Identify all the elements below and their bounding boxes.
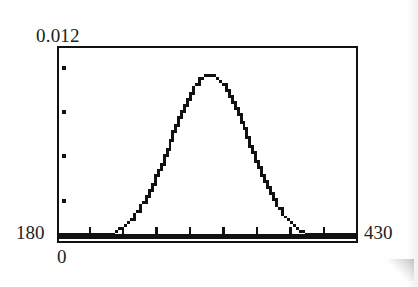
y-tick-dot-0 [62, 66, 66, 70]
normal-distribution-curve [59, 48, 356, 241]
x-tick-mark-4 [222, 227, 225, 234]
x-tick-mark-2 [155, 227, 158, 234]
plot-frame [57, 46, 358, 243]
scan-edge-shadow [408, 0, 418, 287]
x-axis-min-label: 180 [16, 222, 45, 243]
x-axis-max-label: 430 [364, 222, 393, 243]
x-tick-mark-3 [189, 227, 192, 234]
scan-canvas: 0.012 180 430 0 [0, 0, 418, 287]
y-axis-min-label: 0 [57, 246, 67, 267]
x-tick-mark-0 [89, 227, 92, 234]
plot-area [59, 48, 356, 241]
x-tick-mark-1 [122, 227, 125, 234]
x-tick-mark-6 [289, 227, 292, 234]
x-tick-mark-7 [323, 227, 326, 234]
x-tick-mark-5 [256, 227, 259, 234]
y-axis-max-label: 0.012 [36, 25, 80, 46]
y-tick-dot-1 [62, 110, 66, 114]
page-corner-artifact [388, 259, 414, 281]
x-axis-baseline [59, 234, 356, 239]
y-tick-dot-3 [62, 199, 66, 203]
y-tick-dot-2 [62, 154, 66, 158]
